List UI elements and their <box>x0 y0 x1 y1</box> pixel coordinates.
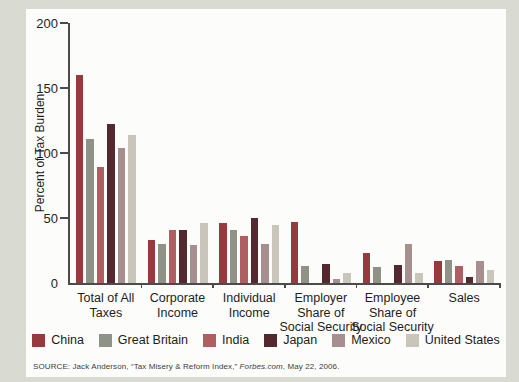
source-note: SOURCE: Jack Anderson, “Tax Misery & Ref… <box>33 362 340 371</box>
legend-swatch-mexico <box>332 334 345 347</box>
legend-label: Mexico <box>351 333 391 347</box>
x-axis-tick-mark <box>141 283 143 288</box>
legend-item-great-britain: Great Britain <box>99 333 188 347</box>
bar-japan-corporate-income <box>179 230 187 283</box>
bar-china-employer-share-of-social-security <box>291 222 299 283</box>
bar-india-sales <box>455 266 463 283</box>
legend: ChinaGreat BritainIndiaJapanMexicoUnited… <box>26 333 506 347</box>
category-group-employer-share-of-social-security: EmployerShare ofSocial Security <box>285 23 357 283</box>
bar-mexico-total-of-all-taxes <box>118 148 126 283</box>
bar-china-total-of-all-taxes <box>76 75 84 283</box>
bar-mexico-sales <box>476 261 484 283</box>
bar-united-states-sales <box>487 270 495 283</box>
bar-mexico-individual-income <box>261 244 269 283</box>
legend-label: Japan <box>283 333 317 347</box>
legend-swatch-china <box>32 334 45 347</box>
bar-united-states-total-of-all-taxes <box>128 135 136 283</box>
bar-india-individual-income <box>240 236 248 283</box>
bar-india-total-of-all-taxes <box>97 167 105 283</box>
legend-item-mexico: Mexico <box>332 333 391 347</box>
y-axis-tick-mark <box>60 152 68 154</box>
figure-card: Percent of Tax Burden Total of AllTaxesC… <box>26 9 506 377</box>
category-group-individual-income: IndividualIncome <box>213 23 285 283</box>
legend-label: United States <box>425 333 500 347</box>
bar-china-employee-share-of-social-security <box>363 253 371 283</box>
y-axis-tick-mark <box>60 87 68 89</box>
category-group-total-of-all-taxes: Total of AllTaxes <box>70 23 142 283</box>
bar-great-britain-total-of-all-taxes <box>86 139 94 283</box>
source-date: , May 22, 2006. <box>283 362 340 371</box>
bar-mexico-corporate-income <box>190 245 198 283</box>
legend-item-india: India <box>203 333 249 347</box>
x-axis-tick-mark <box>212 283 214 288</box>
category-group-sales: Sales <box>428 23 500 283</box>
legend-item-united-states: United States <box>406 333 500 347</box>
x-axis-tick-mark <box>499 283 501 288</box>
bar-great-britain-employee-share-of-social-security <box>373 267 381 283</box>
bar-china-corporate-income <box>148 240 156 283</box>
bar-great-britain-individual-income <box>230 230 238 283</box>
bar-mexico-employee-share-of-social-security <box>405 244 413 283</box>
legend-item-japan: Japan <box>264 333 317 347</box>
x-axis-category-label: Sales <box>408 291 519 306</box>
x-axis-tick-mark <box>356 283 358 288</box>
source-text: SOURCE: Jack Anderson, “Tax Misery & Ref… <box>33 362 240 371</box>
bar-united-states-individual-income <box>272 225 280 284</box>
bar-united-states-employer-share-of-social-security <box>343 273 351 283</box>
bar-japan-employee-share-of-social-security <box>394 265 402 283</box>
y-axis-tick-label: 0 <box>51 276 58 291</box>
bar-china-individual-income <box>219 223 227 283</box>
bar-japan-sales <box>466 277 474 284</box>
legend-swatch-united-states <box>406 334 419 347</box>
category-group-corporate-income: CorporateIncome <box>142 23 214 283</box>
y-axis-tick-label: 50 <box>44 211 58 226</box>
legend-swatch-india <box>203 334 216 347</box>
bar-mexico-employer-share-of-social-security <box>333 279 341 283</box>
legend-swatch-japan <box>264 334 277 347</box>
bar-united-states-employee-share-of-social-security <box>415 273 423 283</box>
y-axis-tick-label: 100 <box>36 146 58 161</box>
x-axis-tick-mark <box>427 283 429 288</box>
y-axis-tick-mark <box>60 22 68 24</box>
y-axis-tick-mark <box>60 217 68 219</box>
legend-swatch-great-britain <box>99 334 112 347</box>
plot-area: Percent of Tax Burden Total of AllTaxesC… <box>68 23 500 285</box>
legend-label: China <box>51 333 84 347</box>
y-axis-tick-label: 200 <box>36 16 58 31</box>
source-publication: Forbes.com <box>240 362 283 371</box>
category-group-employee-share-of-social-security: EmployeeShare ofSocial Security <box>357 23 429 283</box>
bar-united-states-corporate-income <box>200 223 208 283</box>
bar-great-britain-corporate-income <box>158 244 166 283</box>
bar-china-sales <box>434 261 442 283</box>
legend-item-china: China <box>32 333 84 347</box>
y-axis-tick-label: 150 <box>36 81 58 96</box>
bar-great-britain-sales <box>445 260 453 283</box>
x-axis-tick-mark <box>284 283 286 288</box>
bar-japan-individual-income <box>251 218 259 283</box>
plot-groups: Total of AllTaxesCorporateIncomeIndividu… <box>70 23 500 283</box>
bar-great-britain-employer-share-of-social-security <box>301 266 309 283</box>
bar-japan-total-of-all-taxes <box>107 124 115 283</box>
legend-label: Great Britain <box>118 333 188 347</box>
bar-india-corporate-income <box>169 230 177 283</box>
legend-label: India <box>222 333 249 347</box>
bar-japan-employer-share-of-social-security <box>322 264 330 284</box>
screenshot-root: { "chart_data": { "type": "bar", "title"… <box>0 0 519 382</box>
